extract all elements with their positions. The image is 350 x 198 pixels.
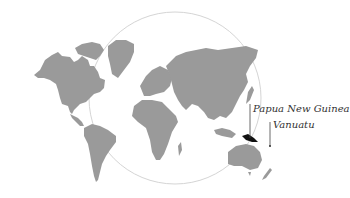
landmass-north-america bbox=[34, 52, 105, 114]
landmass-australia bbox=[228, 144, 262, 170]
label-papua-new-guinea: Papua New Guinea bbox=[253, 104, 350, 114]
landmass-south-america bbox=[84, 124, 116, 182]
landmass-new-zealand bbox=[262, 168, 272, 180]
landmass-central-america bbox=[70, 114, 84, 126]
label-vanuatu: Vanuatu bbox=[273, 120, 315, 130]
landmass-europe bbox=[140, 66, 172, 96]
landmass-africa bbox=[132, 100, 178, 160]
landmass-greenland bbox=[108, 40, 134, 78]
landmass-madagascar bbox=[178, 142, 182, 156]
landmass-japan bbox=[246, 86, 254, 104]
landmass-asia bbox=[166, 46, 258, 120]
landmass-indonesia bbox=[214, 128, 236, 138]
landmass-tasmania bbox=[248, 172, 251, 176]
